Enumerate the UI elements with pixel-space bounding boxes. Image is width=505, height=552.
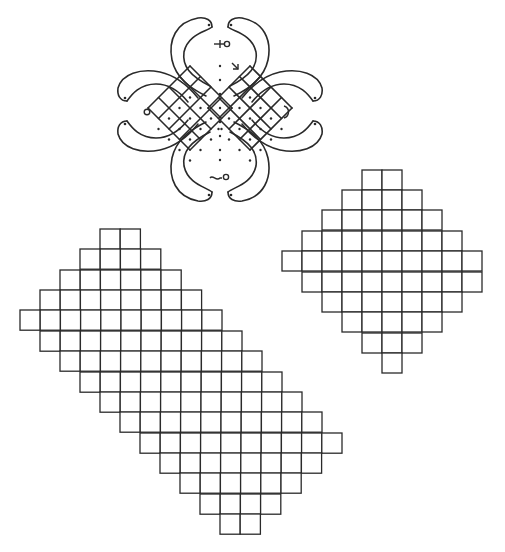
grid-cell [200, 473, 220, 493]
grid-cell [241, 433, 261, 453]
grid-cell [261, 494, 281, 514]
grid-cell [180, 453, 200, 473]
grid-cell [422, 312, 442, 332]
grid-cell [422, 272, 442, 292]
grid-cell [342, 312, 362, 332]
grid-cell [201, 433, 221, 453]
grid-cell [302, 433, 322, 453]
lattice-dot [238, 149, 240, 151]
grid-cell [181, 331, 201, 351]
grid-cell [100, 270, 120, 290]
lattice-dot [168, 138, 170, 140]
grid-cell [160, 433, 180, 453]
grid-cell [161, 310, 181, 330]
grid-cell [221, 392, 241, 412]
grid-cell [240, 494, 260, 514]
center-dot [219, 107, 221, 109]
grid-cell [382, 312, 402, 332]
grid-cell [181, 392, 201, 412]
grid-cell [322, 210, 342, 230]
grid-cell [422, 251, 442, 271]
tip-dot [124, 123, 127, 126]
grid-cell [80, 290, 100, 310]
grid-cell [402, 312, 422, 332]
bottom-right-loop-inner [228, 132, 256, 192]
grid-cell [220, 494, 240, 514]
grid-cell [342, 190, 362, 210]
grid-right [282, 170, 482, 373]
tip-dot [314, 123, 317, 126]
grid-cell [442, 292, 462, 312]
grid-cell [302, 251, 322, 271]
grid-cell [262, 372, 282, 392]
grid-cell [402, 251, 422, 271]
grid-cell [141, 351, 161, 371]
grid-cell [161, 372, 181, 392]
grid-cell [322, 272, 342, 292]
grid-cell [121, 351, 141, 371]
lattice-dot [270, 138, 272, 140]
grid-cell [342, 272, 362, 292]
grid-cell [100, 229, 120, 249]
lattice-dot [238, 128, 240, 130]
grid-cell [282, 251, 302, 271]
lattice-dot [249, 117, 251, 119]
grid-cell [282, 412, 302, 432]
grid-cell [120, 229, 140, 249]
grid-cell [362, 251, 382, 271]
grid-cell [160, 453, 180, 473]
center-dot [219, 121, 221, 123]
grid-cell [281, 473, 301, 493]
lattice-dot [178, 149, 180, 151]
kolam-dots [219, 65, 221, 161]
grid-cell [242, 372, 262, 392]
grid-cell [382, 333, 402, 353]
grid-cell [422, 210, 442, 230]
lattice-dot [199, 149, 201, 151]
lattice-dot [157, 128, 159, 130]
grid-cell [462, 272, 482, 292]
center-dot [219, 79, 221, 81]
grid-cell [81, 310, 101, 330]
grid-cell [40, 310, 60, 330]
top-right-loop-inner [228, 27, 256, 86]
grid-cell [181, 351, 201, 371]
grid-cell [362, 272, 382, 292]
tip-dot [314, 97, 317, 100]
grid-cell [40, 290, 60, 310]
grid-cell [202, 331, 222, 351]
grid-cell [140, 392, 160, 412]
grid-cell [261, 412, 281, 432]
grid-cell [201, 412, 221, 432]
grid-cell [141, 331, 161, 351]
grid-cell [262, 392, 282, 412]
bottom-left-loop-inner [184, 132, 212, 192]
grid-cell [382, 190, 402, 210]
grid-cell [241, 392, 261, 412]
grid-cell [140, 412, 160, 432]
lattice-dot [189, 96, 191, 98]
grid-cell [121, 290, 141, 310]
lattice-dot [228, 117, 230, 119]
grid-cell [121, 331, 141, 351]
grid-cell [100, 249, 120, 269]
grid-cell [120, 249, 140, 269]
grid-cell [422, 231, 442, 251]
grid-cell [241, 412, 261, 432]
grid-cell [181, 290, 201, 310]
lattice-dot [168, 117, 170, 119]
center-dot [219, 65, 221, 67]
lattice-dot [178, 128, 180, 130]
grid-cell [80, 270, 100, 290]
grid-cell [20, 310, 40, 330]
grid-cell [160, 412, 180, 432]
grid-cell [462, 251, 482, 271]
lattice-dot [238, 107, 240, 109]
grid-cell [181, 412, 201, 432]
grid-cell [141, 270, 161, 290]
tip-dot [230, 24, 233, 27]
grid-cell [201, 372, 221, 392]
grid-cell [182, 310, 202, 330]
tip-dot [230, 194, 233, 197]
start-arrow-icon [232, 63, 238, 69]
